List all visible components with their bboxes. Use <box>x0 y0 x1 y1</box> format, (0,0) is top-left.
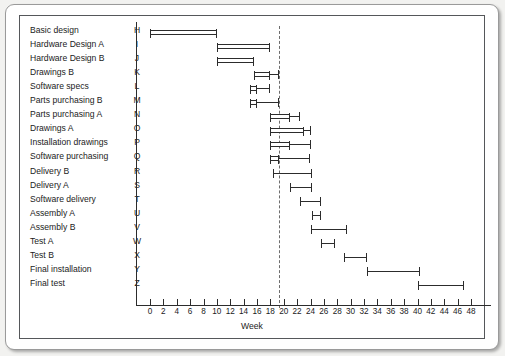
bar-float-o <box>304 130 311 131</box>
x-tick-0 <box>150 299 151 305</box>
x-tick-6 <box>190 299 191 305</box>
task-label-m: Parts purchasing B <box>30 95 128 105</box>
bar-r <box>273 173 312 174</box>
x-tick-12 <box>230 299 231 305</box>
x-tick-30 <box>351 299 352 305</box>
chart-plate: Basic designHHardware Design AIHardware … <box>5 4 499 350</box>
bar-y <box>367 271 421 272</box>
task-label-p: Installation drawings <box>30 137 128 147</box>
bar-u <box>312 215 321 216</box>
x-tick-40 <box>418 299 419 305</box>
x-tick-2 <box>163 299 164 305</box>
x-tick-10 <box>217 299 218 305</box>
bar-x <box>344 257 367 258</box>
bar-o <box>270 128 303 133</box>
task-label-r: Delivery B <box>30 166 128 176</box>
task-label-n: Parts purchasing A <box>30 109 128 119</box>
bar-v <box>311 229 347 230</box>
x-tick-24 <box>311 299 312 305</box>
bar-p <box>270 142 290 147</box>
task-label-w: Test A <box>30 236 128 246</box>
x-tick-32 <box>364 299 365 305</box>
x-tick-26 <box>324 299 325 305</box>
bar-t <box>300 201 321 202</box>
bar-q <box>270 156 279 161</box>
task-label-l: Software specs <box>30 81 128 91</box>
gantt-chart-screenshot: Basic designHHardware Design AIHardware … <box>0 0 505 356</box>
bar-j <box>217 58 254 63</box>
task-label-u: Assembly A <box>30 208 128 218</box>
task-label-o: Drawings A <box>30 123 128 133</box>
bar-m <box>250 100 257 105</box>
bar-s <box>290 187 311 188</box>
bar-w <box>321 243 334 244</box>
bar-k <box>254 72 271 77</box>
x-tick-14 <box>244 299 245 305</box>
task-label-z: Final test <box>30 278 128 288</box>
bar-float-p <box>290 144 310 145</box>
x-tick-20 <box>284 299 285 305</box>
task-label-x: Test B <box>30 250 128 260</box>
bar-i <box>217 44 271 49</box>
task-label-i: Hardware Design A <box>30 39 128 49</box>
task-label-v: Assembly B <box>30 222 128 232</box>
bar-n <box>270 114 290 119</box>
x-tick-48 <box>471 299 472 305</box>
bar-float-n <box>290 116 299 117</box>
x-tick-44 <box>444 299 445 305</box>
task-label-t: Software delivery <box>30 194 128 204</box>
plot-area <box>137 22 480 290</box>
x-tick-46 <box>458 299 459 305</box>
bar-float-m <box>257 102 279 103</box>
x-axis-title: Week <box>20 321 484 331</box>
task-label-s: Delivery A <box>30 180 128 190</box>
x-tick-42 <box>431 299 432 305</box>
milestone-dashed-line <box>279 26 280 308</box>
task-label-y: Final installation <box>30 264 128 274</box>
x-tick-18 <box>270 299 271 305</box>
bar-l <box>250 86 257 91</box>
x-tick-38 <box>404 299 405 305</box>
x-axis-line <box>136 305 491 306</box>
chart-frame: Basic designHHardware Design AIHardware … <box>19 15 485 339</box>
x-tick-34 <box>377 299 378 305</box>
x-tick-label-48: 48 <box>461 307 481 316</box>
x-tick-36 <box>391 299 392 305</box>
task-label-q: Software purchasing <box>30 151 128 161</box>
task-label-h: Basic design <box>30 25 128 35</box>
x-tick-22 <box>297 299 298 305</box>
bar-h <box>150 30 217 35</box>
task-label-k: Drawings B <box>30 67 128 77</box>
x-tick-8 <box>204 299 205 305</box>
bar-z <box>418 285 465 286</box>
bar-float-k <box>270 74 279 75</box>
bar-float-q <box>279 158 310 159</box>
x-tick-28 <box>337 299 338 305</box>
bar-float-l <box>257 88 270 89</box>
x-tick-16 <box>257 299 258 305</box>
x-tick-4 <box>177 299 178 305</box>
task-label-j: Hardware Design B <box>30 53 128 63</box>
